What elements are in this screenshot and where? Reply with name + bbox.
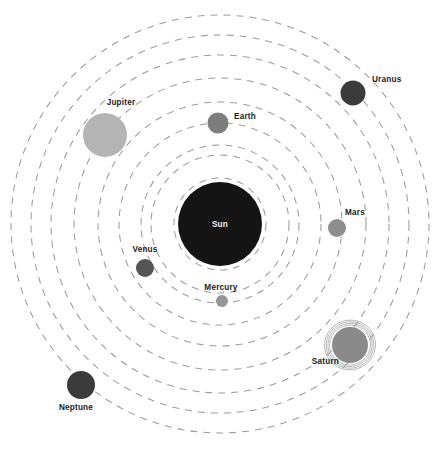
planet-mars[interactable] bbox=[328, 219, 346, 237]
planet-venus[interactable] bbox=[136, 259, 154, 277]
planet-uranus[interactable] bbox=[341, 81, 366, 106]
label-venus: Venus bbox=[132, 245, 157, 254]
planet-jupiter[interactable] bbox=[83, 113, 127, 157]
sun-label: Sun bbox=[212, 220, 228, 229]
sun-group[interactable]: Sun bbox=[178, 182, 262, 266]
label-saturn: Saturn bbox=[312, 357, 339, 366]
label-mars: Mars bbox=[345, 208, 365, 217]
label-mercury: Mercury bbox=[204, 283, 238, 292]
label-neptune: Neptune bbox=[59, 403, 93, 412]
solar-system-diagram: Sun MercuryVenusEarthMarsJupiterSaturnUr… bbox=[0, 0, 438, 451]
solar-system-canvas: Sun MercuryVenusEarthMarsJupiterSaturnUr… bbox=[0, 0, 438, 451]
planet-mercury[interactable] bbox=[216, 295, 228, 307]
label-earth: Earth bbox=[234, 112, 256, 121]
planet-earth[interactable] bbox=[208, 113, 229, 134]
label-jupiter: Jupiter bbox=[107, 98, 136, 107]
label-uranus: Uranus bbox=[372, 75, 402, 84]
planet-neptune[interactable] bbox=[67, 371, 95, 399]
